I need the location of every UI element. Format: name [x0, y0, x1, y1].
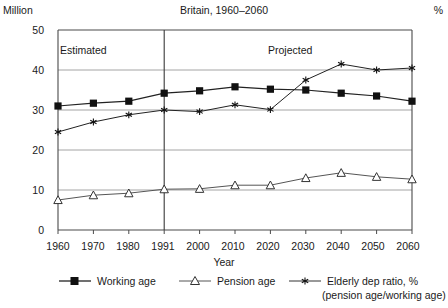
x-tick-2030: 2030: [283, 240, 323, 252]
y-tick-30: 30: [14, 104, 44, 116]
y-tick-40: 40: [14, 64, 44, 76]
x-tick-2050: 2050: [353, 240, 393, 252]
y-tick-0: 0: [14, 224, 44, 236]
x-tick-2000: 2000: [178, 240, 218, 252]
x-tick-marks: [58, 230, 412, 234]
y-tick-10: 10: [14, 184, 44, 196]
x-tick-1970: 1970: [73, 240, 113, 252]
projected-region-label: Projected: [268, 44, 312, 56]
open-triangle-icon: [178, 275, 212, 287]
estimated-region-label: Estimated: [60, 44, 107, 56]
series-working-age: [54, 83, 415, 109]
legend-item-elderly-dep-ratio[interactable]: Elderly dep ratio, %: [288, 274, 418, 287]
legend-item-pension-age[interactable]: Pension age: [178, 274, 275, 287]
chart-title: Britain, 1960–2060: [0, 4, 448, 16]
y-tick-50: 50: [14, 24, 44, 36]
x-tick-1991: 1991: [143, 240, 183, 252]
x-tick-2010: 2010: [213, 240, 253, 252]
x-axis-title: Year: [0, 256, 448, 268]
x-tick-2020: 2020: [248, 240, 288, 252]
series-elderly-dep-ratio-pension-age-working-age: [55, 61, 415, 136]
x-tick-2040: 2040: [318, 240, 358, 252]
legend-sublabel-elderly-dep-ratio: (pension age/working age): [322, 289, 446, 301]
x-tick-1980: 1980: [108, 240, 148, 252]
legend-item-working-age[interactable]: Working age: [58, 274, 156, 287]
y-tick-20: 20: [14, 144, 44, 156]
chart-container: Million Britain, 1960–2060 % Estimated P…: [0, 0, 448, 308]
x-tick-1960: 1960: [38, 240, 78, 252]
series-pension-age: [54, 169, 416, 204]
chart-legend: Working age Pension age: [0, 272, 448, 306]
legend-label-elderly-dep-ratio: Elderly dep ratio, %: [327, 275, 418, 287]
legend-label-working-age: Working age: [97, 275, 156, 287]
secondary-axis-unit-label: %: [434, 4, 443, 16]
plot-frame: [58, 30, 412, 230]
filled-square-icon: [58, 275, 92, 287]
star-icon: [288, 275, 322, 287]
data-series-layer: [54, 61, 416, 204]
x-tick-2060: 2060: [388, 240, 428, 252]
gridlines: [58, 70, 412, 190]
legend-label-pension-age: Pension age: [217, 275, 275, 287]
